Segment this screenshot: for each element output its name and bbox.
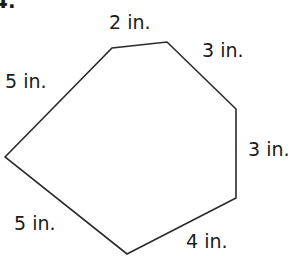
side-label-upper-right: 3 in. [202, 41, 244, 60]
side-label-top: 2 in. [109, 13, 151, 32]
side-label-bottom-right: 4 in. [186, 232, 228, 251]
side-label-bottom-left: 5 in. [14, 214, 56, 233]
side-label-upper-left: 5 in. [5, 72, 47, 91]
side-label-right: 3 in. [248, 140, 290, 159]
